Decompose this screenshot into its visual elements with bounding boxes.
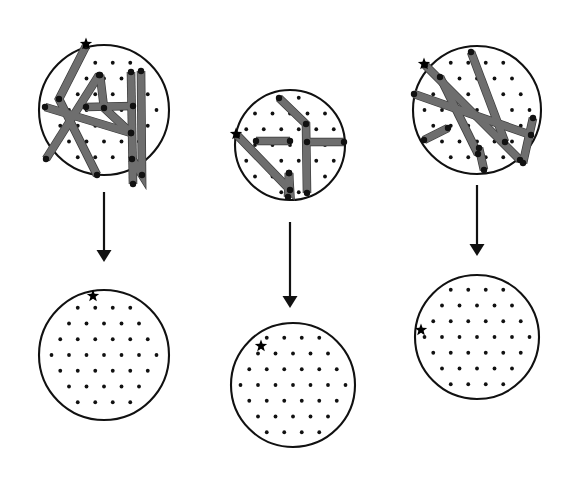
lattice-dot	[265, 399, 269, 403]
lattice-dot	[93, 155, 97, 159]
lattice-dot	[332, 127, 336, 131]
lattice-dot	[519, 351, 523, 355]
lattice-dot	[501, 351, 505, 355]
lattice-dot	[326, 352, 330, 356]
lattice-dot	[431, 124, 435, 128]
lattice-dot	[440, 140, 444, 144]
lattice-dot	[93, 337, 97, 341]
lattice-dot	[300, 367, 304, 371]
lattice-dot	[309, 383, 313, 387]
lattice-dot	[76, 400, 80, 404]
lattice-dot	[314, 159, 318, 163]
lattice-dot	[102, 140, 106, 144]
lattice-dot	[102, 322, 106, 326]
lattice-dot	[501, 382, 505, 386]
lattice-dot	[76, 369, 80, 373]
arrow-head-icon	[283, 296, 298, 308]
lattice-dot	[344, 383, 348, 387]
lattice-dot	[128, 369, 132, 373]
lattice-dot	[58, 337, 62, 341]
path-b[interactable]	[288, 173, 289, 197]
lattice-dot	[85, 322, 89, 326]
lattice-dot	[475, 367, 479, 371]
lattice-dot	[76, 92, 80, 96]
node-dot	[445, 125, 451, 131]
lattice-dot	[155, 108, 159, 112]
node-dot	[481, 167, 487, 173]
node-dot	[303, 121, 309, 127]
panel-bottom-left	[39, 290, 169, 421]
lattice-dot	[466, 351, 470, 355]
node-dot	[476, 145, 482, 151]
lattice-dot	[279, 190, 283, 194]
lattice-dot	[297, 190, 301, 194]
arrow-head-icon	[470, 244, 485, 256]
path-f[interactable]	[86, 106, 133, 107]
lattice-dot	[309, 415, 313, 419]
panel-top-left	[39, 38, 169, 188]
lattice-dot	[111, 155, 115, 159]
node-dot	[437, 74, 443, 80]
lattice-dot	[256, 415, 260, 419]
node-dot	[139, 172, 145, 178]
node-dot	[97, 72, 103, 78]
lattice-dot	[306, 112, 310, 116]
lattice-dot	[510, 335, 514, 339]
lattice-dot	[291, 352, 295, 356]
lattice-dot	[493, 304, 497, 308]
lattice-dot	[282, 399, 286, 403]
lattice-dot	[155, 353, 159, 357]
lattice-dot	[279, 159, 283, 163]
lattice-dot	[244, 159, 248, 163]
lattice-dot	[85, 77, 89, 81]
node-dot	[101, 105, 107, 111]
lattice-dot	[256, 383, 260, 387]
lattice-dot	[431, 351, 435, 355]
node-dot	[83, 104, 89, 110]
path-e[interactable]	[131, 72, 133, 184]
node-dot	[304, 190, 310, 196]
lattice-dot	[501, 288, 505, 292]
lattice-dot	[128, 306, 132, 310]
lattice-dot	[484, 61, 488, 65]
lattice-dot	[440, 367, 444, 371]
node-dot	[129, 156, 135, 162]
lattice-dot	[510, 367, 514, 371]
node-dot	[285, 194, 291, 200]
lattice-dot	[466, 382, 470, 386]
lattice-dot	[50, 353, 54, 357]
lattice-dot	[93, 306, 97, 310]
lattice-dot	[85, 385, 89, 389]
lattice-dot	[431, 92, 435, 96]
node-dot	[530, 115, 536, 121]
lattice-dot	[137, 353, 141, 357]
lattice-dot	[501, 155, 505, 159]
lattice-dot	[111, 369, 115, 373]
lattice-dot	[297, 159, 301, 163]
node-dot	[468, 49, 474, 55]
lattice-dot	[458, 140, 462, 144]
lattice-dot	[67, 385, 71, 389]
lattice-dot	[519, 319, 523, 323]
node-dot	[502, 139, 508, 145]
lattice-dot	[501, 319, 505, 323]
lattice-dot	[265, 367, 269, 371]
lattice-dot	[332, 159, 336, 163]
arrow-head-icon	[97, 250, 112, 262]
lattice-dot	[279, 127, 283, 131]
lattice-dot	[111, 92, 115, 96]
lattice-dot	[317, 367, 321, 371]
path-g[interactable]	[479, 148, 484, 170]
lattice-dot	[67, 322, 71, 326]
lattice-dot	[484, 351, 488, 355]
lattice-dot	[102, 353, 106, 357]
lattice-dot	[431, 319, 435, 323]
lattice-dot	[440, 304, 444, 308]
panel-top-right	[411, 46, 541, 174]
diagram-svg	[0, 0, 577, 497]
lattice-dot	[317, 430, 321, 434]
lattice-dot	[274, 383, 278, 387]
lattice-dot	[323, 112, 327, 116]
lattice-dot	[111, 306, 115, 310]
lattice-dot	[85, 353, 89, 357]
